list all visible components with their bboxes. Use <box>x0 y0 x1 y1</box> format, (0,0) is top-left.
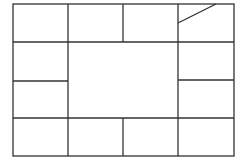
grid-diagram <box>0 0 248 168</box>
line-diagonal <box>178 4 216 23</box>
